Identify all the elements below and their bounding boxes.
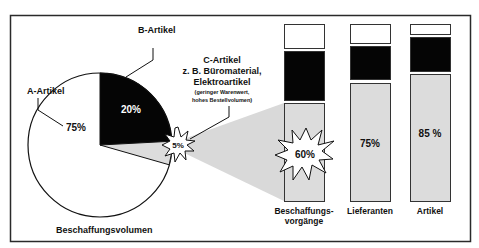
label-b-artikel: B-Artikel: [138, 25, 176, 35]
svg-text:(geringer Warenwert,: (geringer Warenwert,: [195, 89, 250, 95]
pie-caption: Beschaffungsvolumen: [56, 225, 153, 235]
bar3-c-value: 85 %: [419, 128, 442, 139]
bar1-c-value: 60%: [295, 149, 315, 160]
bar3-label: Artikel: [417, 206, 443, 216]
svg-text:Elektroartikel: Elektroartikel: [193, 77, 250, 87]
svg-text:C-Artikel: C-Artikel: [203, 55, 241, 65]
svg-text:hohes Bestellvolumen): hohes Bestellvolumen): [192, 97, 252, 103]
bar2-label: Lieferanten: [347, 206, 393, 216]
value-c: 5%: [172, 141, 184, 150]
bar-artikel: [411, 25, 451, 202]
bar-lieferanten: [351, 25, 391, 202]
value-b: 20%: [121, 104, 141, 115]
bar-beschaffungsvorgaenge: [285, 25, 325, 202]
svg-text:z. B. Büromaterial,: z. B. Büromaterial,: [182, 66, 261, 76]
bar2-c-value: 75%: [360, 138, 380, 149]
label-a-artikel: A-Artikel: [27, 86, 65, 96]
bar1-label-line2: vorgänge: [285, 216, 324, 226]
bar1-label-line1: Beschaffungs-: [274, 206, 333, 216]
value-a: 75%: [66, 122, 86, 133]
abc-analysis-diagram: A-Artikel 75% B-Artikel 20% C-Artikel z.…: [0, 0, 479, 248]
